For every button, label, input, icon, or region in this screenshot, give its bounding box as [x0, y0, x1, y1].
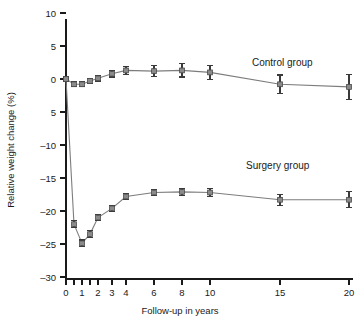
x-tick-label: 1 [79, 287, 84, 298]
data-point-marker [80, 82, 85, 87]
data-point-marker [124, 68, 129, 73]
x-tick-label: 3 [109, 287, 114, 298]
weight-change-line-chart: 10505–10–15–20–25–30 0123468101520 Follo… [0, 0, 363, 325]
y-axis-ticks: 10505–10–15–20–25–30 [40, 8, 66, 283]
y-tick-label: 5 [51, 41, 56, 52]
data-point-marker [72, 222, 77, 227]
series-control-group [63, 64, 351, 100]
y-axis-title: Relative weight change (%) [5, 92, 16, 208]
data-point-marker [347, 85, 352, 90]
x-tick-label: 8 [179, 287, 184, 298]
y-tick-label: 10 [45, 8, 56, 19]
data-point-marker [88, 232, 93, 237]
data-point-marker [110, 71, 115, 76]
y-tick-label: 5 [51, 107, 56, 118]
data-point-marker [278, 197, 283, 202]
data-point-marker [347, 197, 352, 202]
data-point-marker [88, 79, 93, 84]
series-label-control-group: Control group [252, 57, 313, 68]
x-axis-title: Follow-up in years [141, 305, 218, 316]
data-point-marker [278, 82, 283, 87]
data-point-marker [64, 77, 69, 82]
y-tick-label: –25 [40, 239, 56, 250]
y-tick-label: –20 [40, 206, 56, 217]
x-tick-label: 20 [344, 287, 355, 298]
data-series-layer [63, 64, 351, 247]
data-point-marker [180, 189, 185, 194]
data-point-marker [96, 76, 101, 81]
x-tick-label: 4 [123, 287, 128, 298]
x-axis-ticks: 0123468101520 [63, 279, 354, 298]
data-point-marker [152, 69, 157, 74]
x-tick-label: 6 [151, 287, 156, 298]
x-tick-label: 15 [275, 287, 286, 298]
data-point-marker [80, 241, 85, 246]
x-tick-label: 0 [63, 287, 68, 298]
data-point-marker [124, 194, 129, 199]
data-point-marker [110, 206, 115, 211]
y-tick-label: 0 [51, 74, 56, 85]
x-tick-label: 2 [95, 287, 100, 298]
data-point-marker [180, 68, 185, 73]
y-tick-label: –10 [40, 140, 56, 151]
chart-figure: 10505–10–15–20–25–30 0123468101520 Follo… [0, 0, 363, 325]
data-point-marker [96, 215, 101, 220]
data-point-marker [72, 82, 77, 87]
data-point-marker [208, 70, 213, 75]
data-point-marker [208, 190, 213, 195]
x-tick-label: 10 [205, 287, 216, 298]
series-label-surgery-group: Surgery group [246, 160, 310, 171]
data-point-marker [152, 190, 157, 195]
y-tick-label: –15 [40, 173, 56, 184]
y-tick-label: –30 [40, 272, 56, 283]
